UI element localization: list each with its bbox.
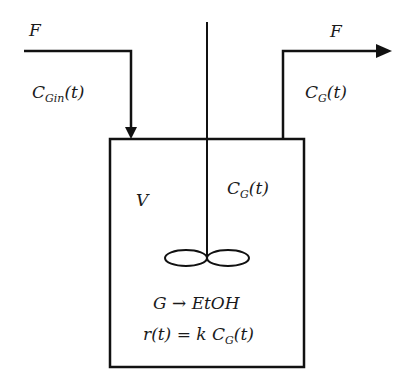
inlet-flow-label: F [29, 22, 41, 39]
rate-equation: r(t) = k CG(t) [143, 326, 254, 346]
outlet-concentration-label: CG(t) [305, 84, 347, 104]
reaction-equation: G → EtOH [153, 295, 240, 312]
outlet-arrow-icon [376, 44, 392, 58]
inlet-arrow-icon [125, 127, 137, 139]
impeller-blade-left [165, 250, 207, 266]
tank-concentration-label: CG(t) [227, 180, 269, 200]
impeller-blade-right [207, 250, 249, 266]
volume-label: V [136, 192, 148, 209]
inlet-concentration-label: CGin(t) [32, 84, 85, 104]
outlet-flow-label: F [330, 23, 342, 40]
